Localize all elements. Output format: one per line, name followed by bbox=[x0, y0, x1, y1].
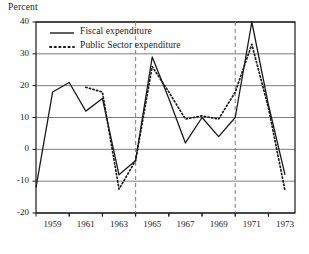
x-axis-tick-label: 1961 bbox=[69, 219, 103, 229]
plot-area bbox=[0, 0, 309, 254]
x-axis-tick-label: 1973 bbox=[268, 219, 302, 229]
x-axis-tick-label: 1959 bbox=[36, 219, 70, 229]
x-axis-tick-label: 1965 bbox=[135, 219, 169, 229]
y-axis-tick-label: 40 bbox=[9, 16, 29, 26]
y-axis-tick-label: 0 bbox=[9, 143, 29, 153]
x-axis-tick-label: 1963 bbox=[102, 219, 136, 229]
y-axis-tick-label: 10 bbox=[9, 112, 29, 122]
x-axis-tick-label: 1967 bbox=[168, 219, 202, 229]
y-axis-tick-label: -10 bbox=[9, 175, 29, 185]
chart-container: Percent 403020100-10-2019591961196319651… bbox=[0, 0, 309, 254]
y-axis-tick-label: -20 bbox=[9, 207, 29, 217]
y-axis-tick-label: 30 bbox=[9, 48, 29, 58]
y-axis-tick-label: 20 bbox=[9, 80, 29, 90]
x-axis-tick-label: 1969 bbox=[202, 219, 236, 229]
x-axis-tick-label: 1971 bbox=[235, 219, 269, 229]
